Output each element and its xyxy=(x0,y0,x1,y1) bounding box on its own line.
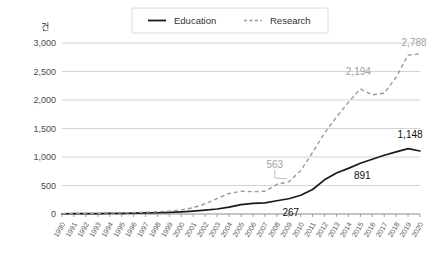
y-axis-tick-label: 0 xyxy=(51,209,56,219)
data-point-label: 563 xyxy=(266,159,283,170)
y-axis-tick-label: 2,500 xyxy=(33,67,56,77)
line-chart: 05001,0001,5002,0002,5003,000 건 19901991… xyxy=(0,0,433,255)
y-axis-tick-label: 2,000 xyxy=(33,95,56,105)
legend-item-label: Education xyxy=(174,15,216,26)
data-point-label: 891 xyxy=(354,170,371,181)
data-point-label: 267 xyxy=(282,207,299,218)
y-axis-unit: 건 xyxy=(41,22,49,32)
series-lines xyxy=(62,54,420,214)
y-axis-tick-labels: 05001,0001,5002,0002,5003,000 xyxy=(33,38,56,219)
x-axis-tick-labels: 1990199119921993199419951996199719981999… xyxy=(51,221,425,239)
x-axis-tick-label: 2010 xyxy=(290,221,306,239)
series-line-research xyxy=(62,54,420,214)
y-axis-tick-label: 500 xyxy=(41,181,56,191)
y-axis-tick-label: 1,500 xyxy=(33,124,56,134)
y-axis-unit-label: 건 xyxy=(41,22,49,32)
label-leader-line xyxy=(275,170,287,179)
data-point-label: 2,194 xyxy=(346,66,371,77)
chart-container: 05001,0001,5002,0002,5003,000 건 19901991… xyxy=(0,0,433,255)
data-point-label: 2,788 xyxy=(402,37,427,48)
y-axis-tick-label: 3,000 xyxy=(33,38,56,48)
x-axis-tick-label: 2020 xyxy=(409,221,425,239)
chart-legend[interactable]: EducationResearch xyxy=(132,8,328,33)
data-point-label: 1,148 xyxy=(398,129,423,140)
y-axis-tick-label: 1,000 xyxy=(33,152,56,162)
legend-item-label: Research xyxy=(270,15,311,26)
